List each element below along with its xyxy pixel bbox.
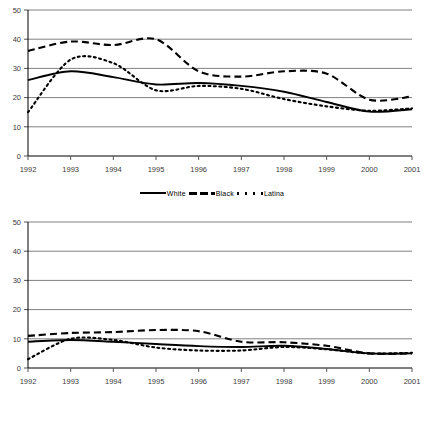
y-tick-label: 30 <box>13 276 21 285</box>
y-tick-label: 10 <box>13 335 21 344</box>
x-tick-label: 2000 <box>361 377 378 386</box>
legend-label: Latina <box>264 190 284 197</box>
y-tick-label: 20 <box>13 305 21 314</box>
legend-swatch-solid-icon <box>140 190 166 197</box>
legend-label: White <box>167 190 186 197</box>
y-tick-label: 40 <box>13 247 21 256</box>
y-tick-label: 50 <box>13 218 21 227</box>
chart-top-legend: WhiteBlackLatina <box>0 189 424 197</box>
x-tick-label: 1994 <box>105 165 122 174</box>
legend-item-black: Black <box>189 189 234 197</box>
y-tick-label: 50 <box>13 6 21 15</box>
x-tick-label: 1992 <box>20 377 37 386</box>
x-tick-label: 1998 <box>276 377 293 386</box>
y-tick-label: 10 <box>13 123 21 132</box>
series-line-white <box>28 340 412 354</box>
x-tick-label: 1998 <box>276 165 293 174</box>
x-tick-label: 1999 <box>318 165 335 174</box>
x-tick-label: 1993 <box>62 377 79 386</box>
legend-swatch-dotted-icon <box>237 190 263 197</box>
legend-item-white: White <box>140 189 186 197</box>
series-line-black <box>28 38 412 101</box>
y-tick-label: 0 <box>17 364 21 373</box>
chart-bottom: 0102030405019921993199419951996199719981… <box>0 212 424 431</box>
chart-top-plot: 0102030405019921993199419951996199719981… <box>0 0 424 185</box>
chart-bottom-plot: 0102030405019921993199419951996199719981… <box>0 212 424 397</box>
series-line-black <box>28 330 412 354</box>
legend-item-latina: Latina <box>237 189 284 197</box>
y-tick-label: 0 <box>17 152 21 161</box>
x-tick-label: 1994 <box>105 377 122 386</box>
x-tick-label: 1999 <box>318 377 335 386</box>
x-tick-label: 1995 <box>148 377 165 386</box>
y-tick-label: 40 <box>13 35 21 44</box>
x-tick-label: 2000 <box>361 165 378 174</box>
y-tick-label: 20 <box>13 93 21 102</box>
x-tick-label: 1997 <box>233 377 250 386</box>
x-tick-label: 1997 <box>233 165 250 174</box>
x-tick-label: 1993 <box>62 165 79 174</box>
x-tick-label: 1995 <box>148 165 165 174</box>
x-tick-label: 2001 <box>404 165 421 174</box>
legend-swatch-dashed-icon <box>189 190 215 197</box>
x-tick-label: 1996 <box>190 165 207 174</box>
x-tick-label: 1992 <box>20 165 37 174</box>
x-tick-label: 1996 <box>190 377 207 386</box>
legend-label: Black <box>216 190 234 197</box>
chart-top: 0102030405019921993199419951996199719981… <box>0 0 424 212</box>
y-tick-label: 30 <box>13 64 21 73</box>
x-tick-label: 2001 <box>404 377 421 386</box>
